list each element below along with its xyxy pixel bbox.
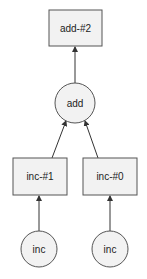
node-add[interactable]: add bbox=[55, 83, 95, 123]
node-inc-1-label: inc-#1 bbox=[26, 171, 54, 182]
node-inc-0[interactable]: inc-#0 bbox=[83, 158, 137, 195]
edge-inc1-to-add bbox=[52, 121, 66, 158]
node-inc-1[interactable]: inc-#1 bbox=[13, 158, 67, 195]
node-inc-0-label: inc-#0 bbox=[96, 171, 124, 182]
node-add-2[interactable]: add-#2 bbox=[49, 10, 102, 46]
node-inc-left[interactable]: inc bbox=[21, 231, 57, 267]
graph-canvas: add-#2 add inc-#1 inc-#0 inc inc bbox=[0, 0, 147, 279]
node-add-label: add bbox=[67, 98, 84, 109]
node-inc-right-label: inc bbox=[104, 244, 117, 255]
node-inc-left-label: inc bbox=[33, 244, 46, 255]
node-add-2-label: add-#2 bbox=[60, 23, 92, 34]
node-inc-right[interactable]: inc bbox=[92, 231, 128, 267]
edge-inc0-to-add bbox=[85, 121, 98, 158]
